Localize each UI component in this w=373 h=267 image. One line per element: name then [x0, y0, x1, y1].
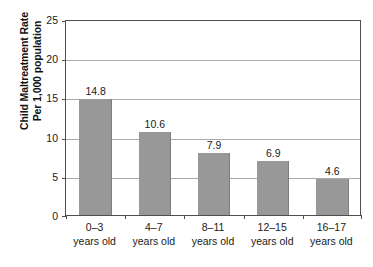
y-tickmark-25	[62, 21, 66, 22]
x-label-16-17: 16–17 years old	[301, 221, 361, 248]
bar-value-12-15: 6.9	[248, 148, 298, 159]
x-tickmark-2	[184, 215, 185, 219]
y-tick-label-20: 20	[34, 54, 58, 64]
y-tick-label-0: 0	[34, 211, 58, 221]
x-axis-category-labels: 0–3 years old 4–7 years old 8–11 years o…	[65, 221, 361, 261]
x-label-8-11-range: 8–11	[183, 221, 243, 235]
x-tickmark-1	[125, 215, 126, 219]
x-tickmark-5	[361, 215, 362, 219]
x-label-4-7-range: 4–7	[124, 221, 184, 235]
x-label-0-3-range: 0–3	[65, 221, 125, 235]
y-axis-title-line-1: Child Maltreatment Rate	[18, 0, 31, 161]
x-tickmark-0	[66, 215, 67, 219]
x-label-0-3-unit: years old	[65, 235, 125, 249]
bar-value-16-17: 4.6	[307, 166, 357, 177]
x-label-16-17-unit: years old	[301, 235, 361, 249]
bar-16-17-years-old	[316, 179, 349, 215]
y-tick-label-10: 10	[34, 133, 58, 143]
bar-12-15-years-old	[257, 161, 290, 215]
bar-4-7-years-old	[139, 132, 172, 215]
bar-8-11-years-old	[198, 153, 231, 215]
bar-value-4-7: 10.6	[130, 119, 180, 130]
y-tick-label-5: 5	[34, 172, 58, 182]
x-label-12-15: 12–15 years old	[242, 221, 302, 248]
bar-value-8-11: 7.9	[189, 140, 239, 151]
y-tickmark-15	[62, 99, 66, 100]
bar-value-0-3: 14.8	[71, 86, 121, 97]
y-axis-tick-labels: 0 5 10 15 20 25	[34, 20, 58, 216]
y-tickmark-10	[62, 139, 66, 140]
x-label-12-15-range: 12–15	[242, 221, 302, 235]
x-label-4-7: 4–7 years old	[124, 221, 184, 248]
x-tickmark-3	[244, 215, 245, 219]
y-tick-label-25: 25	[34, 15, 58, 25]
x-label-0-3: 0–3 years old	[65, 221, 125, 248]
y-tickmark-5	[62, 178, 66, 179]
x-label-8-11: 8–11 years old	[183, 221, 243, 248]
x-tickmark-4	[303, 215, 304, 219]
y-tick-label-15: 15	[34, 93, 58, 103]
bar-chart: Child Maltreatment Rate Per 1,000 popula…	[0, 0, 373, 267]
x-label-16-17-range: 16–17	[301, 221, 361, 235]
bar-0-3-years-old	[79, 99, 112, 215]
plot-area: 14.8 10.6 7.9 6.9 4.6	[65, 20, 361, 216]
gridline-20	[66, 60, 360, 61]
x-label-4-7-unit: years old	[124, 235, 184, 249]
x-label-8-11-unit: years old	[183, 235, 243, 249]
y-tickmark-20	[62, 60, 66, 61]
x-label-12-15-unit: years old	[242, 235, 302, 249]
